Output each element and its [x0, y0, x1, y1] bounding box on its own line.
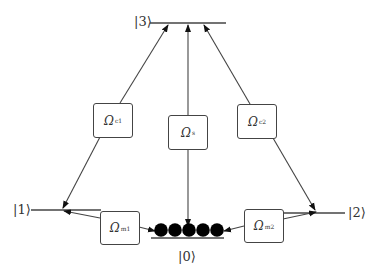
omega-subscript: c2	[259, 118, 266, 125]
atom-cluster	[154, 223, 224, 237]
atom-icon	[210, 223, 224, 237]
m1-left-line	[64, 211, 100, 218]
ket-3-label: |3⟩	[134, 15, 152, 28]
omega-c1-box: Ωc1	[93, 103, 133, 138]
c1-lower-line	[63, 137, 100, 208]
omega-subscript: m2	[265, 223, 275, 230]
omega-s-box: Ωs	[168, 115, 208, 150]
c2-upper-line	[204, 25, 250, 104]
m1-right-line	[139, 227, 155, 231]
omega-symbol: Ω	[181, 126, 191, 140]
atom-icon	[182, 223, 196, 237]
atom-icon	[154, 223, 168, 237]
m2-left-line	[224, 226, 244, 231]
atom-icon	[196, 223, 210, 237]
omega-c2-box: Ωc2	[237, 104, 277, 139]
omega-subscript: s	[192, 129, 195, 136]
omega-subscript: m1	[121, 225, 131, 232]
omega-symbol: Ω	[254, 219, 264, 233]
omega-symbol: Ω	[104, 114, 114, 128]
omega-subscript: c1	[115, 117, 122, 124]
energy-level-diagram: |3⟩ |1⟩ |2⟩ |0⟩ Ωc1 Ωs Ωc2 Ωm1 Ωm2	[0, 0, 373, 277]
omega-m2-box: Ωm2	[244, 209, 284, 243]
omega-symbol: Ω	[110, 221, 120, 235]
omega-m1-box: Ωm1	[100, 211, 140, 245]
ket-0-label: |0⟩	[178, 250, 196, 263]
c2-lower-line	[273, 138, 315, 210]
atom-icon	[168, 223, 182, 237]
omega-symbol: Ω	[248, 115, 258, 129]
ket-1-label: |1⟩	[13, 203, 31, 216]
ket-2-label: |2⟩	[348, 206, 366, 219]
c1-upper-line	[120, 25, 168, 103]
